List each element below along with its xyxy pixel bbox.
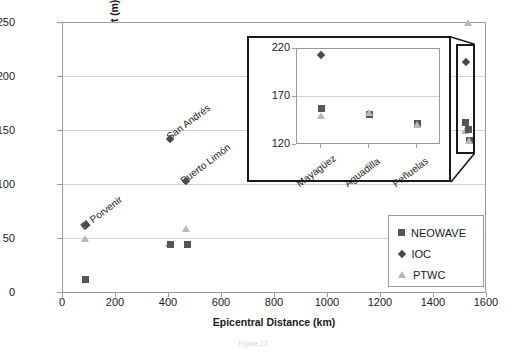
x-tick-800: 800 xyxy=(249,296,299,308)
y-tick-100: 100 xyxy=(0,178,15,190)
inset-y-tick-220: 220 xyxy=(249,41,290,53)
x-tick-1400: 1400 xyxy=(408,296,458,308)
diamond-marker-icon xyxy=(397,249,405,257)
legend-label: IOC xyxy=(412,248,432,260)
inset-point-ioc-mayaguez[interactable] xyxy=(317,50,325,58)
inset-gridline-170 xyxy=(297,96,439,97)
y-tick-150: 150 xyxy=(0,124,15,136)
zoom-region-box xyxy=(456,44,475,154)
legend-item-neowave[interactable]: NEOWAVE xyxy=(398,222,483,243)
figure-caption: Figure 12 xyxy=(0,340,506,347)
inset-y-tick-120: 120 xyxy=(249,137,290,149)
inset-point-ptwc-mayaguez[interactable] xyxy=(317,112,325,119)
data-point-ptwc[interactable] xyxy=(464,19,472,26)
inset-x-tick-mark xyxy=(416,144,417,148)
x-tick-600: 600 xyxy=(196,296,246,308)
inset-point-ptwc-aguadilla[interactable] xyxy=(365,109,373,116)
data-point-neowave[interactable] xyxy=(167,241,174,248)
y-tick-0: 0 xyxy=(0,286,15,298)
legend-label: NEOWAVE xyxy=(411,227,466,239)
legend-item-ptwc[interactable]: PTWC xyxy=(398,264,483,285)
inset-point-ptwc-penuelas[interactable] xyxy=(413,121,421,128)
x-tick-1200: 1200 xyxy=(355,296,405,308)
x-axis-title: Epicentral Distance (km) xyxy=(62,316,486,328)
data-point-neowave[interactable] xyxy=(184,241,191,248)
x-tick-1000: 1000 xyxy=(302,296,352,308)
inset-y-tick-170: 170 xyxy=(249,89,290,101)
figure-container: ETA of the maximum tsunami height (m) 25… xyxy=(0,0,506,357)
inset-y-tick-mark xyxy=(292,144,296,145)
legend-item-ioc[interactable]: IOC xyxy=(398,243,483,264)
inset-chart: 220 170 120 Mayagüez Aguadilla Peñuelas xyxy=(247,36,451,182)
x-tick-0: 0 xyxy=(37,296,87,308)
y-tick-50: 50 xyxy=(0,232,15,244)
triangle-marker-icon xyxy=(398,271,406,278)
legend-label: PTWC xyxy=(413,269,445,281)
gridline-100 xyxy=(63,184,485,185)
inset-x-tick-mark xyxy=(368,144,369,148)
x-tick-200: 200 xyxy=(90,296,140,308)
inset-point-neowave-mayaguez[interactable] xyxy=(318,105,325,112)
legend: NEOWAVE IOC PTWC xyxy=(388,215,484,287)
y-tick-250: 250 xyxy=(0,16,15,28)
inset-plot-area xyxy=(296,48,440,144)
x-tick-400: 400 xyxy=(143,296,193,308)
square-marker-icon xyxy=(398,229,405,236)
inset-x-tick-mark xyxy=(320,144,321,148)
data-point-ptwc[interactable] xyxy=(81,235,89,242)
x-tick-1600: 1600 xyxy=(461,296,506,308)
data-point-neowave[interactable] xyxy=(82,276,89,283)
data-point-ptwc[interactable] xyxy=(182,225,190,232)
y-tick-200: 200 xyxy=(0,70,15,82)
